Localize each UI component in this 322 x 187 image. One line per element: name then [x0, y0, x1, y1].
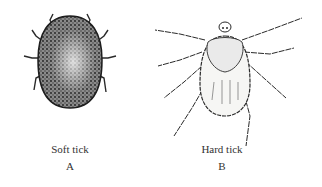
panel-b-letter: B — [190, 160, 254, 172]
hard-tick-illustration — [150, 0, 322, 150]
panel-a-letter: A — [40, 160, 100, 172]
soft-tick-label: Soft tick — [40, 143, 100, 155]
soft-tick-icon — [10, 0, 130, 125]
hard-tick-label: Hard tick — [190, 143, 254, 155]
soft-tick-illustration — [10, 0, 130, 125]
hard-tick-icon — [150, 0, 322, 150]
